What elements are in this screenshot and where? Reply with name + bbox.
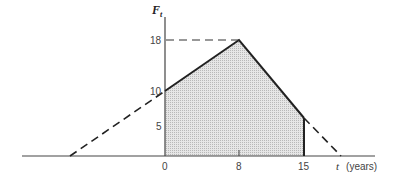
dashed-right (304, 118, 341, 156)
tick-label-y-10: 10 (150, 86, 162, 97)
tick-label-y-5: 5 (156, 121, 162, 132)
tick-label-y-18: 18 (150, 35, 162, 46)
dashed-left (70, 91, 165, 156)
tick-label-x-15: 15 (298, 161, 310, 172)
x-axis-label: t (years) (336, 156, 377, 173)
diagram-canvas: Ft 18 10 5 0 8 15 t (years) (0, 0, 395, 176)
tick-label-x-8: 8 (236, 161, 242, 172)
y-axis-label: Ft (151, 3, 163, 19)
shaded-area (165, 40, 304, 156)
tick-label-x-0: 0 (162, 161, 168, 172)
